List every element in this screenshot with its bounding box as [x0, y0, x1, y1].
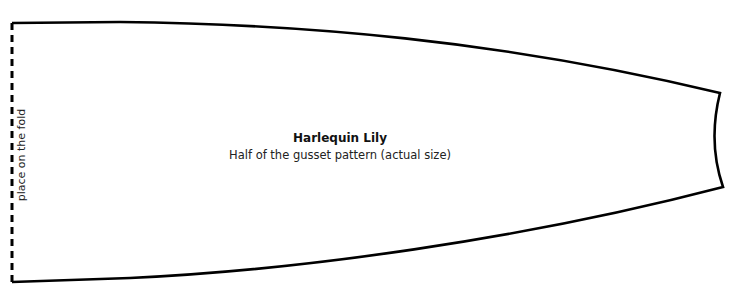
pattern-title: Harlequin Lily — [215, 131, 465, 145]
fold-label: place on the fold — [15, 109, 28, 201]
pattern-subtitle: Half of the gusset pattern (actual size) — [165, 148, 515, 162]
